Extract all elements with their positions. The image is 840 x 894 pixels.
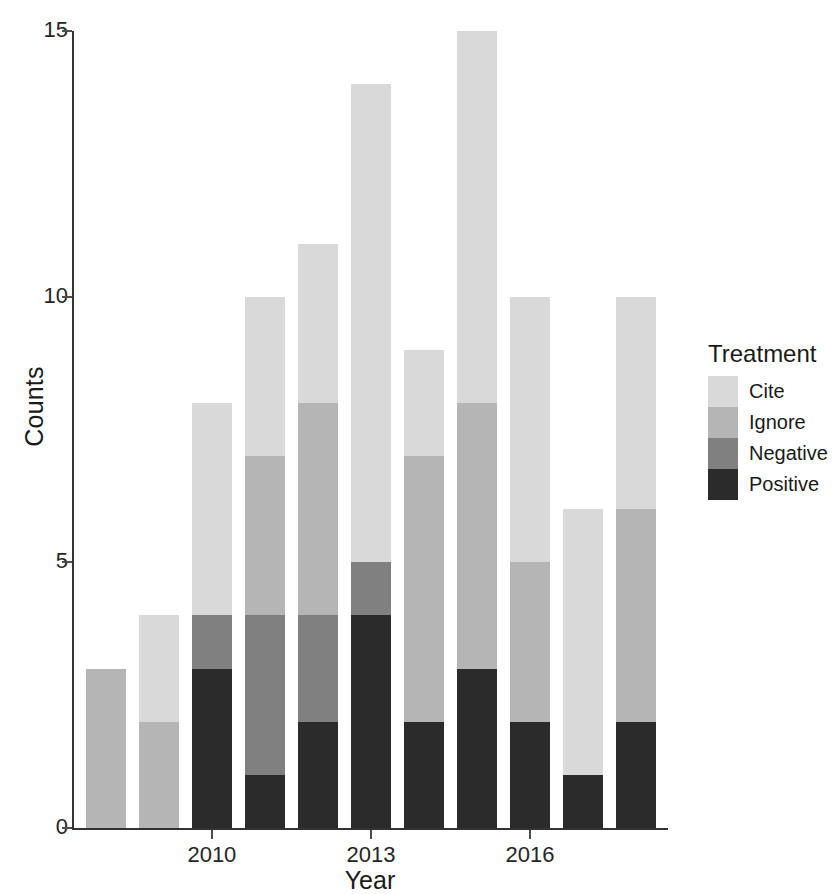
legend-swatch-ignore bbox=[708, 407, 738, 438]
x-tick-label: 2013 bbox=[321, 842, 421, 868]
bar-segment[interactable] bbox=[510, 722, 550, 828]
bar-segment[interactable] bbox=[616, 722, 656, 828]
bar-segment[interactable] bbox=[245, 297, 285, 456]
bar-segment[interactable] bbox=[86, 669, 126, 828]
x-tick-label: 2016 bbox=[480, 842, 580, 868]
bar-segment[interactable] bbox=[351, 84, 391, 562]
x-axis-title: Year bbox=[72, 866, 668, 894]
legend-label: Positive bbox=[749, 473, 819, 496]
legend-items: CiteIgnoreNegativePositive bbox=[708, 376, 838, 500]
y-tick-mark bbox=[62, 30, 72, 32]
bar-segment[interactable] bbox=[404, 350, 444, 456]
bar-segment[interactable] bbox=[139, 615, 179, 721]
y-tick-label: 15 bbox=[16, 19, 68, 41]
bar-segment[interactable] bbox=[616, 509, 656, 722]
bar-segment[interactable] bbox=[192, 403, 232, 616]
legend-item[interactable]: Ignore bbox=[708, 407, 838, 438]
legend-item[interactable]: Cite bbox=[708, 376, 838, 407]
bar-segment[interactable] bbox=[245, 456, 285, 615]
legend-label: Cite bbox=[749, 380, 785, 403]
bar-segment[interactable] bbox=[457, 669, 497, 828]
bar-segment[interactable] bbox=[457, 403, 497, 669]
bar-segment[interactable] bbox=[351, 615, 391, 828]
x-tick-label: 2010 bbox=[162, 842, 262, 868]
bar-segment[interactable] bbox=[351, 562, 391, 615]
legend-item[interactable]: Negative bbox=[708, 438, 838, 469]
y-tick-mark bbox=[62, 827, 72, 829]
y-tick-mark bbox=[62, 296, 72, 298]
bar-segment[interactable] bbox=[298, 722, 338, 828]
bar-segment[interactable] bbox=[298, 403, 338, 616]
stacked-bar-chart: Counts 051015 201020132016 Year Treatmen… bbox=[0, 0, 840, 894]
y-tick-label: 10 bbox=[16, 285, 68, 307]
y-tick-label: 5 bbox=[16, 550, 68, 572]
bar-segment[interactable] bbox=[563, 509, 603, 775]
bar-segment[interactable] bbox=[457, 31, 497, 403]
legend-swatch-positive bbox=[708, 469, 738, 500]
bar-segment[interactable] bbox=[192, 615, 232, 668]
x-tick-mark bbox=[370, 830, 372, 839]
bar-segment[interactable] bbox=[404, 722, 444, 828]
bar-segment[interactable] bbox=[245, 615, 285, 774]
x-tick-mark bbox=[529, 830, 531, 839]
bar-segment[interactable] bbox=[563, 775, 603, 828]
legend-label: Ignore bbox=[749, 411, 806, 434]
bar-segment[interactable] bbox=[616, 297, 656, 510]
legend-title: Treatment bbox=[708, 340, 838, 368]
bar-segment[interactable] bbox=[510, 562, 550, 721]
bar-segment[interactable] bbox=[298, 615, 338, 721]
x-tick-mark bbox=[211, 830, 213, 839]
y-tick-label: 0 bbox=[16, 816, 68, 838]
bar-segment[interactable] bbox=[192, 669, 232, 828]
bar-segment[interactable] bbox=[245, 775, 285, 828]
y-tick-mark bbox=[62, 561, 72, 563]
legend-label: Negative bbox=[749, 442, 828, 465]
legend-item[interactable]: Positive bbox=[708, 469, 838, 500]
plot-area bbox=[74, 31, 668, 828]
y-axis-ticks: 051015 bbox=[0, 0, 68, 894]
bar-segment[interactable] bbox=[404, 456, 444, 722]
bar-segment[interactable] bbox=[298, 244, 338, 403]
bar-segment[interactable] bbox=[139, 722, 179, 828]
legend: Treatment CiteIgnoreNegativePositive bbox=[708, 340, 838, 500]
bar-segment[interactable] bbox=[510, 297, 550, 563]
legend-swatch-negative bbox=[708, 438, 738, 469]
legend-swatch-cite bbox=[708, 376, 738, 407]
